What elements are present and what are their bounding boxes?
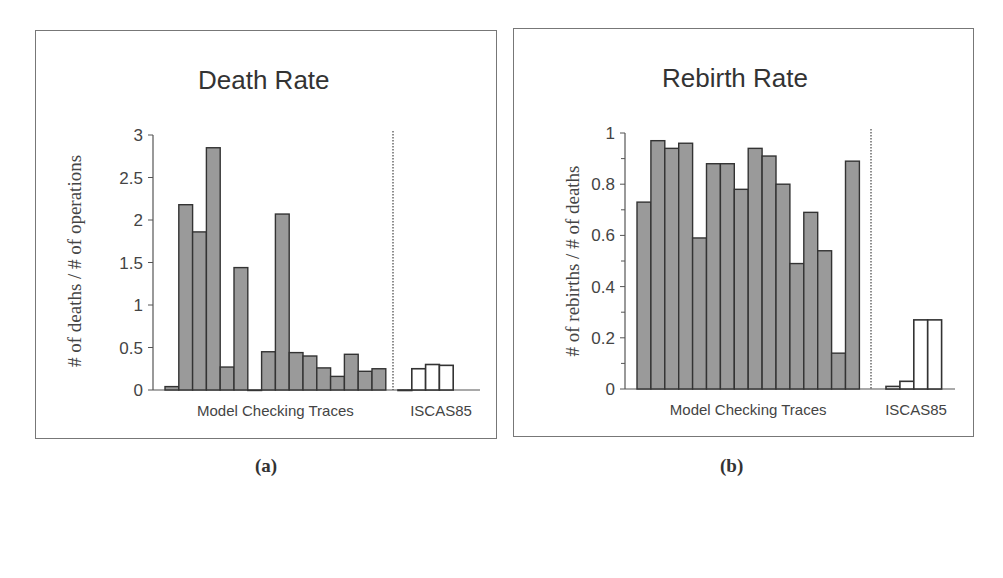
bar-model-checking bbox=[734, 189, 748, 389]
caption-b: (b) bbox=[720, 455, 743, 477]
bar-model-checking bbox=[776, 184, 790, 389]
group-label-iscas85: ISCAS85 bbox=[885, 401, 947, 418]
y-tick-label: 0.4 bbox=[591, 278, 615, 297]
bar-iscas85 bbox=[886, 386, 900, 389]
bar-model-checking bbox=[748, 148, 762, 389]
bar-model-checking bbox=[762, 156, 776, 389]
bar-model-checking bbox=[679, 143, 693, 389]
group-label-model-checking: Model Checking Traces bbox=[670, 401, 827, 418]
bar-model-checking bbox=[665, 148, 679, 389]
bar-model-checking bbox=[651, 141, 665, 389]
y-tick-label: 0.6 bbox=[591, 226, 615, 245]
y-tick-label: 0.2 bbox=[591, 329, 615, 348]
bar-model-checking bbox=[818, 251, 832, 389]
bar-model-checking bbox=[707, 164, 721, 389]
bar-model-checking bbox=[804, 212, 818, 389]
y-tick-label: 0 bbox=[606, 380, 615, 399]
y-tick-label: 0.8 bbox=[591, 175, 615, 194]
bar-model-checking bbox=[846, 161, 860, 389]
bar-iscas85 bbox=[900, 381, 914, 389]
rebirth-rate-chart: 00.20.40.60.81Model Checking TracesISCAS… bbox=[0, 0, 1003, 578]
bar-iscas85 bbox=[914, 320, 928, 389]
bar-model-checking bbox=[693, 238, 707, 389]
bar-model-checking bbox=[790, 264, 804, 389]
y-tick-label: 1 bbox=[606, 124, 615, 143]
bar-model-checking bbox=[720, 164, 734, 389]
bar-model-checking bbox=[637, 202, 651, 389]
bar-model-checking bbox=[832, 353, 846, 389]
bar-iscas85 bbox=[928, 320, 942, 389]
